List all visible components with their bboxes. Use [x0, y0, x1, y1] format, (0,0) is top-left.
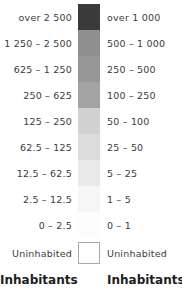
legend-row: 12.5 – 62.5 5 – 25	[0, 160, 182, 186]
legend-color-swatch	[78, 108, 100, 134]
legend-title-left: Inhabitants	[0, 273, 78, 287]
legend-row: 0 – 2.5 0 – 1	[0, 212, 182, 238]
legend-label-right: over 1 000	[100, 12, 182, 23]
legend-label-right: 5 – 25	[100, 168, 182, 179]
legend-row: 1 250 – 2 500 500 – 1 000	[0, 30, 182, 56]
legend-color-swatch	[78, 134, 100, 160]
legend-label-left: 125 – 250	[0, 116, 78, 127]
uninhabited-label-right: Uninhabited	[100, 248, 182, 259]
legend-color-swatch	[78, 186, 100, 212]
legend-label-right: 50 – 100	[100, 116, 182, 127]
legend-title-right: Inhabitants	[100, 273, 182, 287]
legend-color-swatch	[78, 56, 100, 82]
legend-label-left: 250 – 625	[0, 90, 78, 101]
legend-row: 2.5 – 12.5 1 – 5	[0, 186, 182, 212]
legend-color-swatch	[78, 4, 100, 30]
legend-row: over 2 500 over 1 000	[0, 4, 182, 30]
legend-label-left: 2.5 – 12.5	[0, 194, 78, 205]
legend-row: 125 – 250 50 – 100	[0, 108, 182, 134]
legend-label-right: 0 – 1	[100, 220, 182, 231]
legend-label-right: 25 – 50	[100, 142, 182, 153]
legend-label-right: 100 – 250	[100, 90, 182, 101]
legend-label-left: 62.5 – 125	[0, 142, 78, 153]
legend-rows: over 2 500 over 1 000 1 250 – 2 500 500 …	[0, 4, 182, 291]
map-legend: over 2 500 over 1 000 1 250 – 2 500 500 …	[0, 0, 182, 298]
legend-row: 625 – 1 250 250 – 500	[0, 56, 182, 82]
legend-label-left: over 2 500	[0, 12, 78, 23]
legend-color-swatch	[78, 212, 100, 238]
legend-label-left: 1 250 – 2 500	[0, 38, 78, 49]
legend-label-left: 625 – 1 250	[0, 64, 78, 75]
legend-color-swatch	[78, 160, 100, 186]
legend-row: 250 – 625 100 – 250	[0, 82, 182, 108]
uninhabited-label-left: Uninhabited	[0, 248, 78, 259]
uninhabited-swatch	[78, 242, 100, 264]
legend-label-right: 1 – 5	[100, 194, 182, 205]
legend-row: 62.5 – 125 25 – 50	[0, 134, 182, 160]
legend-color-swatch	[78, 82, 100, 108]
legend-label-left: 0 – 2.5	[0, 220, 78, 231]
legend-label-left: 12.5 – 62.5	[0, 168, 78, 179]
legend-label-right: 500 – 1 000	[100, 38, 182, 49]
legend-row-uninhabited: Uninhabited Uninhabited	[0, 238, 182, 268]
legend-color-swatch	[78, 30, 100, 56]
legend-footer: Inhabitants Inhabitants	[0, 269, 182, 291]
legend-label-right: 250 – 500	[100, 64, 182, 75]
